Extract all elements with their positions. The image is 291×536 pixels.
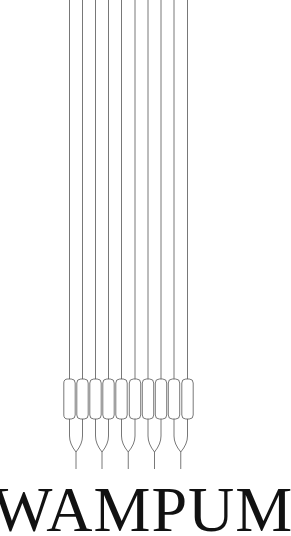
bead-capsule: [90, 379, 101, 419]
fork-connector: [174, 419, 188, 452]
bead-capsule: [142, 379, 153, 419]
bead-capsule: [129, 379, 140, 419]
bead-capsule: [116, 379, 127, 419]
fork-connector: [96, 419, 109, 452]
fork-connector: [148, 419, 161, 452]
bead-capsule: [168, 379, 179, 419]
wampum-strings-illustration: [0, 0, 260, 480]
bead-capsule: [64, 379, 75, 419]
bead-capsule: [155, 379, 166, 419]
bead-capsule: [182, 379, 193, 419]
fork-connector: [70, 419, 83, 452]
brand-wordmark: WAMPUM: [0, 478, 282, 536]
bead-capsule: [103, 379, 114, 419]
fork-connector: [122, 419, 136, 452]
bead-capsule: [77, 379, 88, 419]
